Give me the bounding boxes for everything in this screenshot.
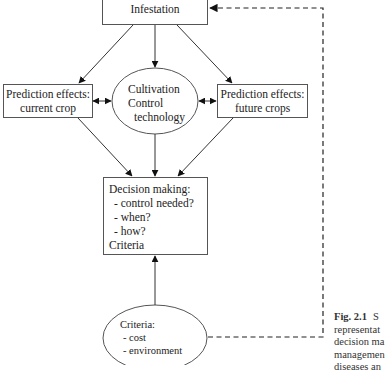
caption-fig-num: Fig. 2.1 xyxy=(334,311,367,322)
decision-footer: Criteria xyxy=(109,238,194,252)
criteria-item-cost: - cost xyxy=(120,331,182,344)
decision-title: Decision making: xyxy=(109,182,194,196)
prediction-current-label: Prediction effects: current crop xyxy=(3,87,93,115)
decision-label: Decision making: - control needed? - whe… xyxy=(109,182,194,252)
prediction-current-line2: current crop xyxy=(3,101,93,115)
cultivation-label: Cultivation Control technology xyxy=(128,82,185,124)
figure-caption: Fig. 2.1S representat decision ma manage… xyxy=(334,311,385,374)
caption-line-1-text: S xyxy=(373,311,379,322)
prediction-current-line1: Prediction effects: xyxy=(3,87,93,101)
decision-item-when: - when? xyxy=(109,210,194,224)
criteria-item-environment: - environment xyxy=(120,344,182,357)
infestation-text: Infestation xyxy=(130,3,179,15)
cultivation-line2: Control xyxy=(128,96,185,110)
prediction-future-line2: future crops xyxy=(217,101,308,115)
decision-item-how: - how? xyxy=(109,224,194,238)
edge-infestation-to-current xyxy=(79,25,133,83)
caption-line-3: decision ma xyxy=(334,336,385,349)
caption-line-4: managemen xyxy=(334,349,385,362)
criteria-title: Criteria: xyxy=(120,318,182,331)
edge-infestation-to-future xyxy=(177,25,232,83)
infestation-label: Infestation xyxy=(102,2,208,16)
edge-future-to-decision xyxy=(178,118,233,176)
prediction-future-line1: Prediction effects: xyxy=(217,87,308,101)
criteria-label: Criteria: - cost - environment xyxy=(120,318,182,357)
decision-item-control: - control needed? xyxy=(109,196,194,210)
edge-criteria-to-infestation-dashed xyxy=(208,8,323,337)
prediction-future-label: Prediction effects: future crops xyxy=(217,87,308,115)
cultivation-line1: Cultivation xyxy=(128,82,185,96)
caption-line-2: representat xyxy=(334,324,385,337)
edge-current-to-decision xyxy=(78,118,132,176)
caption-line-1: Fig. 2.1S xyxy=(334,311,385,324)
cultivation-line3: technology xyxy=(128,110,185,124)
caption-line-5: diseases an xyxy=(334,361,385,374)
